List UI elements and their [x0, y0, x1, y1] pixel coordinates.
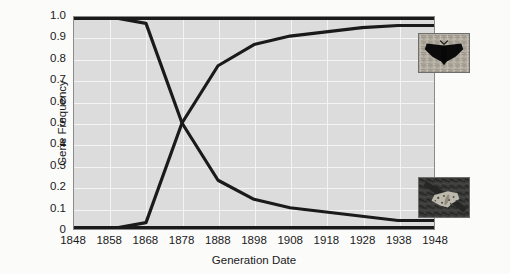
- series-line-typical: [74, 17, 434, 221]
- x-tick-label: 1908: [277, 235, 303, 247]
- plot-area: [73, 16, 435, 230]
- dark-moth-photo: [418, 33, 470, 73]
- y-axis-title-wrap: Gene Frequency: [26, 16, 44, 230]
- x-tick-label: 1878: [169, 235, 195, 247]
- light-moth-icon: [419, 178, 469, 217]
- x-tick-label: 1858: [96, 235, 122, 247]
- x-tick-label: 1948: [422, 235, 448, 247]
- dark-moth-icon: [419, 34, 469, 72]
- axis-top-edge: [74, 17, 434, 20]
- gene-frequency-chart: 1.00.90.80.70.60.50.40.30.20.10 Gene Fre…: [0, 0, 510, 274]
- x-tick-label: 1868: [133, 235, 159, 247]
- x-tick-label: 1848: [60, 235, 86, 247]
- y-tick-label: 0.9: [50, 32, 66, 44]
- series-lines: [74, 17, 434, 229]
- x-tick-label: 1888: [205, 235, 231, 247]
- axis-bottom-edge: [74, 226, 434, 229]
- x-tick-label: 1938: [386, 235, 412, 247]
- x-tick-label: 1918: [314, 235, 340, 247]
- y-tick-label: 0.1: [50, 203, 66, 215]
- x-axis-title: Generation Date: [73, 254, 435, 266]
- x-tick-label: 1898: [241, 235, 267, 247]
- x-tick-label: 1928: [350, 235, 376, 247]
- y-axis-title: Gene Frequency: [56, 43, 68, 203]
- light-moth-photo: [418, 177, 470, 218]
- y-tick-label: 1.0: [50, 10, 66, 22]
